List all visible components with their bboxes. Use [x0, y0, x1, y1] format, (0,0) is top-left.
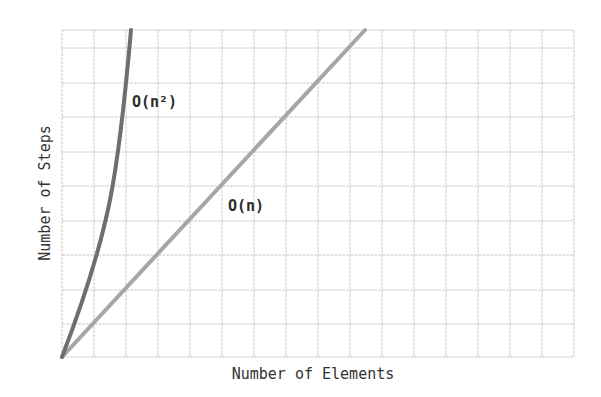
y-axis-label: Number of Steps: [36, 125, 54, 260]
line-o-n: [62, 30, 365, 357]
line-o-n-squared: [62, 30, 131, 357]
complexity-chart: O(n²) O(n) Number of Elements Number of …: [0, 0, 601, 397]
label-o-n-squared: O(n²): [132, 93, 177, 111]
x-axis-label: Number of Elements: [232, 365, 395, 383]
label-o-n: O(n): [228, 197, 264, 215]
